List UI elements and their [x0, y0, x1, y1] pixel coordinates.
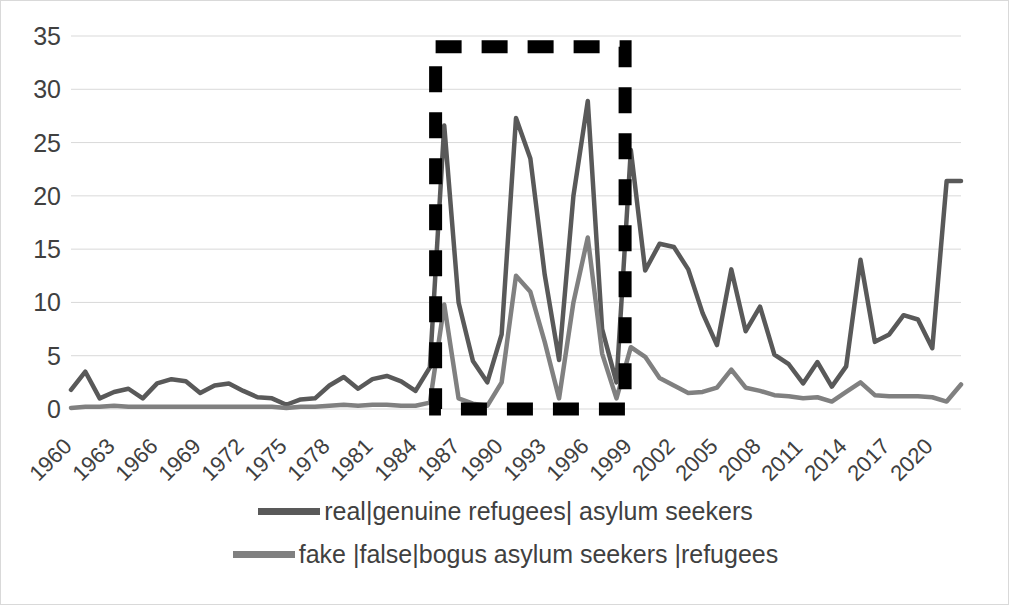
x-tick-label: 1966	[110, 434, 163, 487]
legend-color-swatch	[233, 551, 295, 558]
x-tick-label: 1960	[24, 434, 77, 487]
x-tick-label: 1987	[412, 434, 465, 487]
chart-legend: real|genuine refugees| asylum seekersfak…	[1, 499, 1009, 599]
y-tick-label: 25	[9, 130, 61, 155]
y-tick-label: 15	[9, 237, 61, 262]
x-tick-label: 2005	[670, 434, 723, 487]
x-tick-label: 1972	[197, 434, 250, 487]
legend-label: real|genuine refugees| asylum seekers	[324, 499, 753, 524]
x-tick-label: 1993	[498, 434, 551, 487]
x-tick-label: 1963	[67, 434, 120, 487]
gridlines	[71, 36, 961, 409]
x-tick-label: 1996	[541, 434, 594, 487]
x-tick-label: 1978	[283, 434, 336, 487]
y-tick-label: 35	[9, 24, 61, 49]
y-tick-label: 10	[9, 290, 61, 315]
x-tick-label: 2017	[843, 434, 896, 487]
x-tick-label: 1999	[584, 434, 637, 487]
y-tick-label: 30	[9, 77, 61, 102]
x-tick-label: 1969	[154, 434, 207, 487]
plot-svg	[71, 36, 961, 409]
legend-item[interactable]: real|genuine refugees| asylum seekers	[1, 499, 1009, 524]
x-axis: 1960196319661969197219751978198119841987…	[71, 413, 961, 483]
series-line-1	[71, 101, 961, 405]
y-axis: 05101520253035	[1, 36, 61, 409]
x-tick-label: 1981	[326, 434, 379, 487]
legend-label: fake |false|bogus asylum seekers |refuge…	[299, 542, 778, 567]
series-lines	[71, 101, 961, 408]
chart-container: 05101520253035 1960196319661969197219751…	[0, 0, 1009, 605]
x-tick-label: 2014	[799, 434, 852, 487]
x-tick-label: 2002	[627, 434, 680, 487]
x-tick-label: 1984	[369, 434, 422, 487]
x-tick-label: 1975	[240, 434, 293, 487]
y-tick-label: 20	[9, 183, 61, 208]
x-tick-label: 2011	[756, 435, 808, 487]
legend-color-swatch	[258, 508, 320, 515]
x-tick-label: 2020	[886, 434, 939, 487]
legend-item[interactable]: fake |false|bogus asylum seekers |refuge…	[1, 542, 1009, 567]
y-tick-label: 0	[9, 397, 61, 422]
y-tick-label: 5	[9, 343, 61, 368]
x-tick-label: 2008	[713, 434, 766, 487]
x-tick-label: 1990	[455, 434, 508, 487]
plot-area	[71, 36, 961, 409]
